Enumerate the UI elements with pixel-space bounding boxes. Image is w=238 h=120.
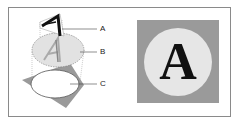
composite-glyph-a: A bbox=[144, 28, 212, 96]
layer-a-glyph bbox=[40, 14, 64, 36]
label-b: B bbox=[100, 48, 105, 56]
label-a: A bbox=[100, 25, 105, 33]
layer-c-gray-diamond bbox=[22, 63, 84, 108]
layer-b-ellipse bbox=[32, 33, 84, 67]
label-c: C bbox=[100, 80, 106, 88]
